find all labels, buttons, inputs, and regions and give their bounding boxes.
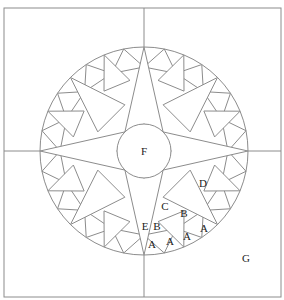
label-a1: A [148, 238, 156, 250]
label-b1: B [153, 220, 160, 232]
label-g: G [242, 252, 250, 264]
label-c: C [161, 200, 168, 212]
label-d: D [199, 177, 207, 189]
label-a4: A [200, 222, 208, 234]
label-e: E [142, 220, 149, 232]
compass-diagram: FEDCBBAAAAG [0, 0, 284, 300]
label-b2: B [180, 207, 187, 219]
label-a2: A [166, 235, 174, 247]
label-a3: A [183, 230, 191, 242]
label-f: F [141, 145, 147, 157]
